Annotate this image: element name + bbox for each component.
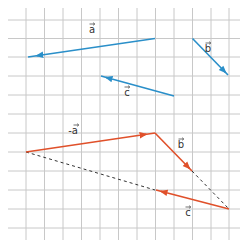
vector-diagram: abc-abc — [0, 0, 240, 244]
given-label-c: c — [124, 87, 130, 98]
vector-labels: abc-abc — [68, 23, 211, 218]
given-vector-a — [28, 39, 155, 58]
construction-label-b: b — [178, 139, 184, 150]
given-label-a: a — [89, 24, 95, 35]
given-arrowhead-b-icon — [225, 72, 226, 73]
construction-label-c: c — [185, 207, 191, 218]
construction-arrowhead-b-icon — [189, 168, 190, 169]
construction-vector-minus-a — [26, 133, 155, 152]
construction-label-minus-a: -a — [68, 125, 78, 136]
given-label-b: b — [205, 43, 211, 54]
